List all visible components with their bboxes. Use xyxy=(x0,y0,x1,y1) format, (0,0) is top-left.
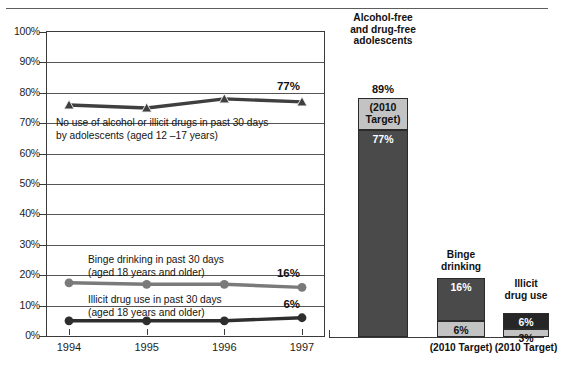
annotation-line: No use of alcohol or illicit drugs in pa… xyxy=(56,116,268,129)
series-end-value-label: 6% xyxy=(254,298,300,310)
bar-title: Binge drinking xyxy=(426,249,496,272)
bar-column: (2010 Target)77% xyxy=(358,98,408,337)
series-marker xyxy=(142,280,151,289)
x-axis-tick-mark xyxy=(147,329,148,335)
series-annotation: Illicit drug use in past 30 days(aged 18… xyxy=(88,293,222,319)
y-axis-tick-label: 20% xyxy=(0,268,40,280)
bar-chart-panel: (2010 Target)77%Alcohol-free and drug-fr… xyxy=(325,0,554,368)
y-axis-tick-mark xyxy=(39,214,46,215)
bar-segment-value-label: (2010 Target) xyxy=(366,99,401,126)
y-axis-tick-label: 10% xyxy=(0,299,40,311)
x-axis-tick-label: 1997 xyxy=(272,341,332,353)
bar-title: Alcohol-free and drug-free adolescents xyxy=(339,12,427,47)
y-axis-tick-mark xyxy=(39,245,46,246)
bar-segment-value-label: 6% xyxy=(453,322,468,337)
bar-title: Illicit drug use xyxy=(491,278,561,301)
y-axis-tick-label: 70% xyxy=(0,116,40,128)
x-axis-tick-mark xyxy=(69,329,70,335)
x-axis-tick-mark xyxy=(224,329,225,335)
y-axis-tick-label: 80% xyxy=(0,86,40,98)
annotation-line: (aged 18 years and older) xyxy=(88,266,224,279)
y-axis-tick-mark xyxy=(39,336,46,337)
annotation-line: Illicit drug use in past 30 days xyxy=(88,293,222,306)
series-annotation: No use of alcohol or illicit drugs in pa… xyxy=(56,116,268,142)
bar-column: 16%6% xyxy=(437,278,485,337)
series-marker xyxy=(65,316,74,325)
bar-footer-label: (2010 Target) xyxy=(481,342,562,353)
y-axis-tick-mark xyxy=(39,306,46,307)
line-chart-plot-area xyxy=(46,31,325,337)
y-axis-tick-mark xyxy=(39,275,46,276)
bar-segment-value-label: 6% xyxy=(518,314,533,329)
bar-target-segment: 3% xyxy=(503,329,549,337)
annotation-line: by adolescents (aged 12 –17 years) xyxy=(56,129,268,142)
y-axis-tick-label: 0% xyxy=(0,329,40,341)
series-marker xyxy=(298,313,307,322)
bar-target-segment: (2010 Target) xyxy=(358,98,408,130)
series-marker xyxy=(298,283,307,292)
y-axis-tick-mark xyxy=(39,93,46,94)
y-axis-tick-label: 50% xyxy=(0,177,40,189)
bar-current-segment: 6% xyxy=(503,313,549,329)
y-axis-tick-label: 60% xyxy=(0,147,40,159)
y-axis-tick-mark xyxy=(39,154,46,155)
x-axis-tick-label: 1996 xyxy=(194,341,254,353)
series-marker xyxy=(220,280,229,289)
line-series-group xyxy=(47,32,324,336)
series-line xyxy=(69,99,302,108)
baseline-left-cap xyxy=(329,330,330,338)
y-axis-tick-mark xyxy=(39,62,46,63)
series-line xyxy=(69,283,302,288)
annotation-line: (aged 18 years and older) xyxy=(88,306,222,319)
bar-current-segment: 16% xyxy=(437,278,485,321)
series-annotation: Binge drinking in past 30 days(aged 18 y… xyxy=(88,253,224,279)
bar-top-value-label: 89% xyxy=(358,83,408,95)
y-axis-tick-label: 100% xyxy=(0,25,40,37)
bar-column: 6%3% xyxy=(503,313,549,337)
y-axis-tick-mark xyxy=(39,184,46,185)
annotation-line: Binge drinking in past 30 days xyxy=(88,253,224,266)
bar-current-segment: 77% xyxy=(358,130,408,337)
bar-target-segment: 6% xyxy=(437,321,485,337)
y-axis-tick-label: 90% xyxy=(0,55,40,67)
y-axis-tick-label: 40% xyxy=(0,207,40,219)
series-end-value-label: 16% xyxy=(254,267,300,279)
bar-baseline xyxy=(329,337,544,338)
series-marker xyxy=(65,278,74,287)
x-axis-tick-label: 1994 xyxy=(39,341,99,353)
x-axis-tick-label: 1995 xyxy=(117,341,177,353)
bar-segment-value-label: 16% xyxy=(450,279,471,294)
bar-segment-value-label: 77% xyxy=(372,131,393,146)
y-axis-tick-label: 30% xyxy=(0,238,40,250)
series-end-value-label: 77% xyxy=(254,80,300,92)
y-axis-tick-mark xyxy=(39,123,46,124)
x-axis-tick-mark xyxy=(302,329,303,335)
y-axis-tick-mark xyxy=(39,32,46,33)
